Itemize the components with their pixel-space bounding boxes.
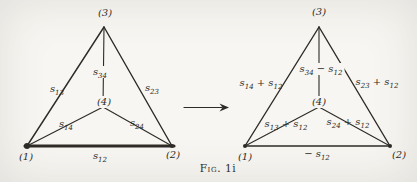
network-after-edge-label-minus-s12: − s12 xyxy=(304,149,330,159)
network-after-vertex-2-dot xyxy=(388,144,392,148)
figure-panel: (3)(1)(2)(4)s13s23s34s14s24s12(3)(1)(2)(… xyxy=(0,0,417,182)
network-before-edge-label-s13: s13 xyxy=(50,84,64,94)
network-after-vertex-2-label: (2) xyxy=(392,150,406,160)
network-before-vertex-3-label: (3) xyxy=(98,8,112,18)
network-before-vertex-4-label: (4) xyxy=(95,96,113,108)
network-before-edge-label-s14: s14 xyxy=(59,119,73,129)
network-after-edge-label-s24-plus-s12: s24 + s12 xyxy=(327,117,370,127)
caption-prefix: Fig. xyxy=(200,162,221,174)
network-after-vertex-1-dot xyxy=(243,144,247,148)
network-before-edge-label-s34: s34 xyxy=(91,66,109,78)
network-after-edge-label-s13-plus-s12: s13 + s12 xyxy=(265,119,308,129)
network-before-edge-label-s12: s12 xyxy=(93,151,107,161)
network-after-vertex-3-label: (3) xyxy=(312,7,326,17)
network-before-edge-label-s24: s24 xyxy=(130,118,144,128)
network-before-vertex-1-dot xyxy=(24,143,30,149)
network-after-vertex-1-label: (1) xyxy=(238,152,252,162)
network-before-vertex-2-dot xyxy=(170,144,174,148)
network-before-edge-label-s23: s23 xyxy=(145,83,159,93)
caption-number: 1i xyxy=(225,162,236,174)
network-before-vertex-2-label: (2) xyxy=(166,150,180,160)
network-before-vertex-1-label: (1) xyxy=(19,152,33,162)
network-after-edge-label-s14-plus-s12: s14 + s12 xyxy=(240,78,283,88)
figure-caption: Fig. 1i xyxy=(200,162,237,174)
network-after-edge-label-s23-plus-s12: s23 + s12 xyxy=(356,77,399,87)
network-after-vertex-4-label: (4) xyxy=(310,96,328,108)
network-after-edge-label-s34-minus-s12: s34 − s12 xyxy=(298,63,345,75)
